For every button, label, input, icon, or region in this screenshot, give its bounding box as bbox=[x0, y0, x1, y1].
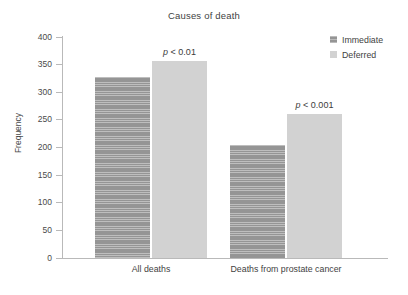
legend-item-immediate[interactable]: Immediate bbox=[330, 33, 383, 46]
y-axis-tick-label: 250 bbox=[16, 114, 52, 125]
p-annotation-prostate-cancer: p < 0.001 bbox=[255, 100, 375, 110]
p-annotation-all-deaths: p < 0.01 bbox=[120, 47, 240, 57]
x-axis-line bbox=[62, 258, 388, 259]
plot-area bbox=[63, 37, 388, 258]
legend-swatch-deferred-icon bbox=[330, 51, 337, 58]
legend-item-deferred[interactable]: Deferred bbox=[330, 48, 383, 61]
p-annotation-prostate-cancer-text: < 0.001 bbox=[301, 100, 334, 110]
y-axis-tick-label: 300 bbox=[16, 87, 52, 98]
x-axis-label-prostate-cancer: Deaths from prostate cancer bbox=[176, 264, 396, 274]
y-axis-tick-mark bbox=[56, 64, 62, 65]
y-axis-tick-mark bbox=[56, 230, 62, 231]
y-axis-tick-label: 350 bbox=[16, 59, 52, 70]
y-axis-tick-label: 100 bbox=[16, 197, 52, 208]
chart-title: Causes of death bbox=[0, 10, 408, 21]
y-axis-tick-label: 50 bbox=[16, 225, 52, 236]
y-axis-tick-mark bbox=[56, 147, 62, 148]
legend-swatch-immediate-icon bbox=[330, 36, 337, 43]
chart-legend: Immediate Deferred bbox=[330, 33, 383, 63]
y-axis-label: Frequency bbox=[13, 93, 23, 173]
legend-label-deferred: Deferred bbox=[342, 50, 376, 60]
y-axis-tick-label: 200 bbox=[16, 142, 52, 153]
y-axis-tick-mark bbox=[56, 119, 62, 120]
y-axis-tick-mark bbox=[56, 202, 62, 203]
y-axis-tick-mark bbox=[56, 37, 62, 38]
bar-immediate-prostate-cancer[interactable] bbox=[230, 145, 285, 258]
bar-immediate-all-deaths[interactable] bbox=[95, 77, 150, 258]
p-annotation-all-deaths-text: < 0.01 bbox=[168, 47, 196, 57]
y-axis-tick-label: 400 bbox=[16, 32, 52, 43]
y-axis-tick-label: 0 bbox=[16, 253, 52, 264]
y-axis-tick-label: 150 bbox=[16, 170, 52, 181]
y-axis-tick-mark bbox=[56, 175, 62, 176]
legend-label-immediate: Immediate bbox=[342, 35, 383, 45]
y-axis-tick-mark bbox=[56, 92, 62, 93]
bar-deferred-prostate-cancer[interactable] bbox=[287, 114, 342, 258]
chart-figure: Causes of death Frequency 05010015020025… bbox=[0, 0, 408, 295]
bar-deferred-all-deaths[interactable] bbox=[152, 61, 207, 258]
y-axis-tick-mark bbox=[56, 258, 62, 259]
